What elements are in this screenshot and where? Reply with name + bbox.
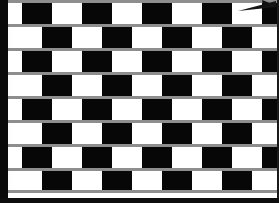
tile-light — [112, 144, 142, 168]
mortar-line-bottom — [8, 190, 279, 193]
tile-light — [112, 48, 142, 72]
tile-dark — [22, 144, 52, 168]
tile-light — [232, 48, 262, 72]
tile-light — [192, 72, 222, 96]
tile-strip — [8, 48, 279, 72]
tile-light — [112, 0, 142, 24]
tile-light — [52, 144, 82, 168]
tile-dark — [222, 168, 252, 190]
frame-left-band — [0, 0, 8, 203]
tile-dark — [22, 48, 52, 72]
tile-light — [192, 120, 222, 144]
mortar-line — [8, 120, 279, 123]
cafe-wall-illusion-figure — [0, 0, 279, 203]
tile-row — [8, 48, 279, 72]
tile-light — [8, 0, 22, 24]
mortar-line — [8, 96, 279, 99]
tile-light — [132, 72, 162, 96]
tile-light — [52, 0, 82, 24]
tile-light — [172, 48, 202, 72]
tile-light — [132, 168, 162, 190]
tile-dark — [162, 168, 192, 190]
tile-light — [232, 0, 262, 24]
tile-dark — [42, 120, 72, 144]
tile-light — [8, 48, 22, 72]
tile-light — [12, 120, 42, 144]
tile-light — [52, 48, 82, 72]
tile-light — [8, 144, 22, 168]
tile-row — [8, 168, 279, 190]
tile-dark — [202, 144, 232, 168]
tile-dark — [202, 48, 232, 72]
tile-dark — [42, 72, 72, 96]
tile-light — [112, 96, 142, 120]
tile-dark — [142, 48, 172, 72]
tile-light — [252, 72, 279, 96]
tile-dark — [102, 168, 132, 190]
tile-dark — [102, 120, 132, 144]
tile-light — [72, 72, 102, 96]
tile-dark — [42, 24, 72, 48]
tile-dark — [42, 168, 72, 190]
tile-dark — [222, 72, 252, 96]
tile-strip — [12, 24, 279, 48]
tile-dark — [222, 24, 252, 48]
tile-dark — [102, 72, 132, 96]
mortar-line — [8, 72, 279, 75]
mortar-line — [8, 168, 279, 171]
tile-field — [8, 0, 279, 198]
tile-strip — [12, 120, 279, 144]
tile-dark — [22, 0, 52, 24]
tile-strip — [8, 144, 279, 168]
frame-right-band — [277, 0, 279, 203]
tile-dark — [82, 48, 112, 72]
tile-light — [252, 24, 279, 48]
tile-light — [12, 24, 42, 48]
tile-light — [232, 96, 262, 120]
tile-strip — [8, 96, 279, 120]
mortar-line — [8, 144, 279, 147]
tile-light — [12, 72, 42, 96]
tile-light — [12, 168, 42, 190]
tile-row — [8, 144, 279, 168]
tile-strip — [8, 0, 279, 24]
tile-row — [8, 96, 279, 120]
tile-dark — [142, 144, 172, 168]
tile-dark — [102, 24, 132, 48]
tile-row — [8, 0, 279, 24]
tile-dark — [202, 0, 232, 24]
tile-light — [252, 120, 279, 144]
tile-dark — [222, 120, 252, 144]
tile-light — [72, 120, 102, 144]
tile-light — [252, 168, 279, 190]
tile-dark — [142, 0, 172, 24]
frame-bottom-band — [0, 198, 279, 203]
tile-light — [72, 24, 102, 48]
tile-light — [52, 96, 82, 120]
tile-light — [192, 168, 222, 190]
tile-dark — [162, 24, 192, 48]
tile-light — [132, 120, 162, 144]
tile-dark — [22, 96, 52, 120]
tile-strip — [12, 168, 279, 190]
tile-dark — [142, 96, 172, 120]
tile-row — [8, 120, 279, 144]
tile-light — [132, 24, 162, 48]
tile-dark — [162, 72, 192, 96]
tile-dark — [202, 96, 232, 120]
tile-light — [172, 144, 202, 168]
tile-light — [172, 96, 202, 120]
mortar-line — [8, 24, 279, 27]
tile-dark — [82, 96, 112, 120]
tile-dark — [162, 120, 192, 144]
tile-light — [72, 168, 102, 190]
mortar-line — [8, 48, 279, 51]
tile-light — [8, 96, 22, 120]
tile-light — [192, 24, 222, 48]
tile-dark — [82, 144, 112, 168]
tile-dark — [82, 0, 112, 24]
tile-row — [8, 72, 279, 96]
tile-light — [232, 144, 262, 168]
tile-light — [172, 0, 202, 24]
tile-row — [8, 24, 279, 48]
